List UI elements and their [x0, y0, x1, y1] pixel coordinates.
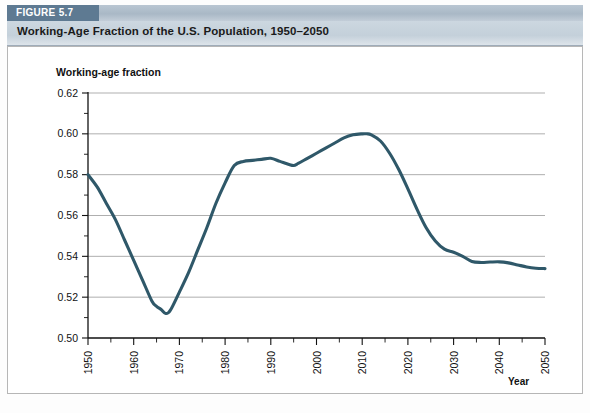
- y-tick-label: 0.50: [58, 332, 79, 344]
- y-tick-label: 0.54: [58, 250, 79, 262]
- x-tick-label: 1950: [82, 351, 94, 375]
- line-chart-plot: 0.500.520.540.560.580.600.62 19501960197…: [0, 0, 590, 413]
- x-tick-label: 2030: [448, 351, 460, 375]
- x-tick-labels-group: 1950196019701980199020002010202020302040…: [82, 351, 551, 375]
- data-series-group: [88, 134, 545, 314]
- x-tick-label: 1990: [265, 351, 277, 375]
- y-tick-label: 0.56: [58, 209, 79, 221]
- y-axis-ticks-group: [82, 93, 88, 338]
- y-tick-label: 0.60: [58, 127, 79, 139]
- y-tick-label: 0.52: [58, 291, 79, 303]
- y-tick-label: 0.58: [58, 168, 79, 180]
- y-tick-label: 0.62: [58, 87, 79, 99]
- x-tick-label: 1980: [219, 351, 231, 375]
- x-tick-label: 1970: [173, 351, 185, 375]
- axis-lines-group: [88, 92, 545, 338]
- x-tick-label: 2050: [539, 351, 551, 375]
- gridlines-group: [88, 93, 545, 297]
- x-tick-label: 1960: [128, 351, 140, 375]
- x-axis-ticks-group: [88, 338, 545, 345]
- x-tick-label: 2000: [311, 351, 323, 375]
- x-tick-label: 2020: [402, 351, 414, 375]
- y-tick-labels-group: 0.500.520.540.560.580.600.62: [58, 87, 79, 344]
- x-tick-label: 2010: [356, 351, 368, 375]
- data-line-working-age-fraction: [88, 134, 545, 314]
- figure-container: FIGURE 5.7 Working-Age Fraction of the U…: [0, 0, 590, 413]
- x-tick-label: 2040: [493, 351, 505, 375]
